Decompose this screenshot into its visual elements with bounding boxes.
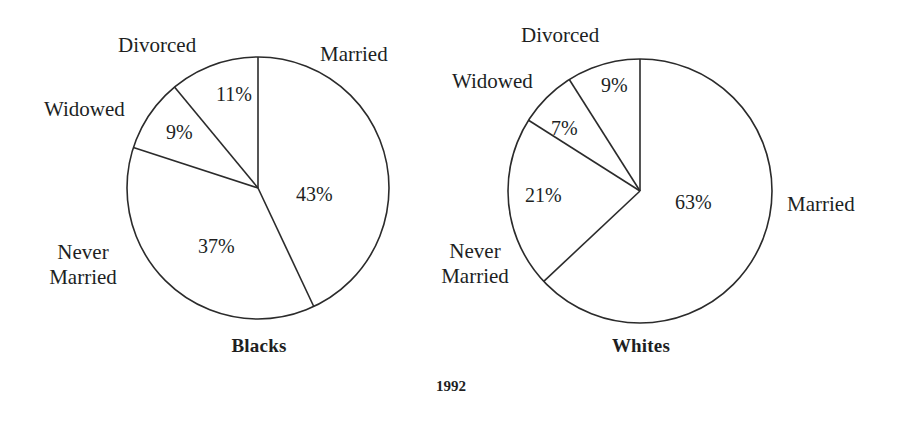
right-percent-divorced: 9%	[601, 75, 628, 96]
pie-chart-drawing	[0, 0, 903, 421]
right-percent-widowed: 7%	[551, 118, 578, 139]
right-label-never-married-line1: Never	[449, 239, 500, 263]
left-label-widowed: Widowed	[44, 98, 125, 120]
right-label-married: Married	[787, 193, 855, 215]
right-label-never-married: Never Married	[420, 239, 530, 289]
left-label-never-married-line1: Never	[57, 240, 108, 264]
right-label-widowed: Widowed	[452, 70, 533, 92]
left-percent-never-married: 37%	[198, 236, 235, 257]
right-label-divorced: Divorced	[521, 24, 599, 46]
left-chart-title: Blacks	[231, 336, 286, 356]
right-percent-married: 63%	[675, 192, 712, 213]
figure-year-caption: 1992	[436, 379, 466, 395]
right-percent-never-married: 21%	[525, 185, 562, 206]
left-label-never-married-line2: Married	[49, 265, 117, 289]
left-pie-blacks	[127, 57, 389, 319]
pie-chart-figure: Divorced Married Widowed Never Married 1…	[0, 0, 903, 421]
right-chart-title: Whites	[612, 336, 670, 356]
left-percent-divorced: 11%	[216, 84, 252, 105]
left-label-divorced: Divorced	[118, 34, 196, 56]
left-label-married: Married	[320, 43, 388, 65]
left-label-never-married: Never Married	[28, 240, 138, 290]
left-percent-widowed: 9%	[166, 122, 193, 143]
left-percent-married: 43%	[296, 184, 333, 205]
right-label-never-married-line2: Married	[441, 264, 509, 288]
